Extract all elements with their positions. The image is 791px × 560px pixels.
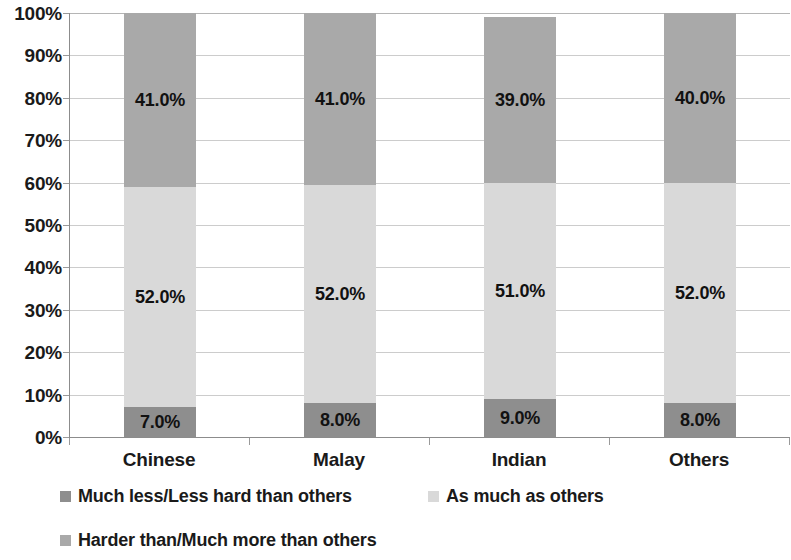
bar-segment[interactable]: 40.0% — [664, 13, 736, 183]
bar-segment-value-label: 8.0% — [320, 411, 360, 429]
bar-segment-value-label: 39.0% — [495, 91, 545, 109]
legend-item[interactable]: Much less/Less hard than others — [60, 487, 352, 506]
y-axis-tick-label: 0% — [0, 428, 62, 447]
legend-label: As much as others — [446, 487, 604, 506]
y-axis-tick-label: 100% — [0, 4, 62, 23]
y-axis: 0%10%20%30%40%50%60%70%80%90%100% — [0, 0, 62, 440]
y-axis-tick-label: 30% — [0, 301, 62, 320]
bar-segment-value-label: 52.0% — [315, 285, 365, 303]
bar-stack: 8.0%52.0%41.0% — [304, 13, 376, 437]
bar-segment-value-label: 52.0% — [135, 288, 185, 306]
bar-segment-value-label: 51.0% — [495, 282, 545, 300]
legend-label: Much less/Less hard than others — [78, 487, 352, 506]
bar-group[interactable]: 9.0%51.0%39.0% — [484, 13, 556, 437]
bar-segment[interactable]: 39.0% — [484, 17, 556, 182]
bar-group[interactable]: 8.0%52.0%41.0% — [304, 13, 376, 437]
y-axis-tick-label: 50% — [0, 216, 62, 235]
x-axis-tick-mark — [609, 438, 610, 445]
legend-item[interactable]: As much as others — [428, 487, 604, 506]
x-axis-tick-mark — [789, 438, 790, 445]
legend-swatch-icon — [60, 535, 71, 546]
bar-group[interactable]: 8.0%52.0%40.0% — [664, 13, 736, 437]
bar-segment-value-label: 40.0% — [675, 89, 725, 107]
x-axis-category-label: Chinese — [69, 450, 249, 470]
legend-item[interactable]: Harder than/Much more than others — [60, 531, 376, 550]
bars-layer: 7.0%52.0%41.0%8.0%52.0%41.0%9.0%51.0%39.… — [70, 13, 790, 437]
bar-segment-value-label: 9.0% — [500, 409, 540, 427]
bar-segment-value-label: 8.0% — [680, 411, 720, 429]
plot-area: 7.0%52.0%41.0%8.0%52.0%41.0%9.0%51.0%39.… — [69, 13, 790, 438]
bar-stack: 7.0%52.0%41.0% — [124, 13, 196, 437]
bar-group[interactable]: 7.0%52.0%41.0% — [124, 13, 196, 437]
x-axis-category-label: Malay — [249, 450, 429, 470]
legend-swatch-icon — [428, 491, 439, 502]
bar-segment[interactable]: 41.0% — [124, 13, 196, 187]
y-axis-tick-label: 60% — [0, 174, 62, 193]
bar-segment[interactable]: 52.0% — [304, 185, 376, 403]
stacked-bar-chart: 0%10%20%30%40%50%60%70%80%90%100% 7.0%52… — [0, 0, 791, 560]
bar-segment[interactable]: 52.0% — [664, 183, 736, 403]
bar-segment-value-label: 7.0% — [140, 413, 180, 431]
x-axis: ChineseMalayIndianOthers — [69, 438, 790, 480]
chart-legend: Much less/Less hard than othersAs much a… — [0, 487, 791, 557]
y-axis-tick-label: 80% — [0, 89, 62, 108]
y-axis-tick-label: 10% — [0, 386, 62, 405]
x-axis-tick-mark — [69, 438, 70, 445]
x-axis-tick-mark — [249, 438, 250, 445]
bar-segment[interactable]: 41.0% — [304, 13, 376, 185]
y-axis-tick-label: 70% — [0, 131, 62, 150]
bar-segment-value-label: 41.0% — [135, 91, 185, 109]
legend-label: Harder than/Much more than others — [78, 531, 376, 550]
bar-segment-value-label: 52.0% — [675, 284, 725, 302]
legend-swatch-icon — [60, 491, 71, 502]
x-axis-category-label: Indian — [429, 450, 609, 470]
x-axis-category-label: Others — [609, 450, 789, 470]
bar-segment[interactable]: 7.0% — [124, 407, 196, 437]
y-axis-tick-label: 20% — [0, 343, 62, 362]
bar-segment[interactable]: 52.0% — [124, 187, 196, 407]
bar-segment[interactable]: 51.0% — [484, 183, 556, 399]
y-axis-tick-label: 40% — [0, 258, 62, 277]
bar-segment[interactable]: 8.0% — [664, 403, 736, 437]
bar-segment[interactable]: 8.0% — [304, 403, 376, 437]
bar-segment-value-label: 41.0% — [315, 90, 365, 108]
x-axis-tick-mark — [429, 438, 430, 445]
bar-stack: 9.0%51.0%39.0% — [484, 13, 556, 437]
y-axis-tick-label: 90% — [0, 46, 62, 65]
bar-stack: 8.0%52.0%40.0% — [664, 13, 736, 437]
bar-segment[interactable]: 9.0% — [484, 399, 556, 437]
